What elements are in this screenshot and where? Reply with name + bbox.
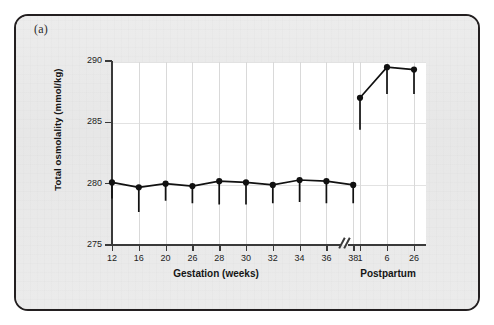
x-axis-line-gestation bbox=[112, 244, 341, 246]
vertical-gridline bbox=[326, 62, 327, 245]
x-tick-label: 1 bbox=[347, 253, 373, 263]
y-tick-label: 280 bbox=[68, 178, 102, 188]
y-tick-label: 285 bbox=[68, 116, 102, 126]
x-tick-label: 6 bbox=[374, 253, 400, 263]
x-tick-mark bbox=[326, 245, 327, 251]
vertical-gridline bbox=[360, 62, 361, 245]
horizontal-gridline bbox=[112, 123, 426, 124]
x-tick-mark bbox=[112, 245, 113, 251]
vertical-gridline bbox=[273, 62, 274, 245]
x-tick-mark bbox=[139, 245, 140, 251]
vertical-gridline bbox=[219, 62, 220, 245]
x-tick-label: 28 bbox=[206, 253, 232, 263]
y-axis-title: Total osmolality (mmol/kg) bbox=[52, 35, 63, 225]
x-tick-mark bbox=[300, 245, 301, 251]
x-tick-label: 26 bbox=[179, 253, 205, 263]
plot-area bbox=[112, 62, 426, 245]
x-axis-title-postpartum: Postpartum bbox=[340, 268, 436, 279]
y-tick-mark bbox=[105, 122, 112, 124]
y-tick-mark bbox=[105, 244, 112, 246]
horizontal-gridline bbox=[112, 185, 426, 186]
x-tick-mark bbox=[387, 245, 388, 251]
vertical-gridline bbox=[246, 62, 247, 245]
figure-panel: (a) 275280285290 12162026283032343638162… bbox=[14, 14, 480, 311]
x-tick-mark bbox=[353, 245, 354, 251]
vertical-gridline bbox=[139, 62, 140, 245]
horizontal-gridline bbox=[112, 62, 426, 63]
x-tick-label: 20 bbox=[153, 253, 179, 263]
panel-label: (a) bbox=[34, 22, 48, 37]
x-tick-mark bbox=[414, 245, 415, 251]
y-tick-mark bbox=[105, 60, 112, 62]
x-tick-mark bbox=[273, 245, 274, 251]
vertical-gridline bbox=[387, 62, 388, 245]
y-axis-line bbox=[111, 61, 113, 246]
x-tick-label: 36 bbox=[313, 253, 339, 263]
vertical-gridline bbox=[300, 62, 301, 245]
vertical-gridline bbox=[414, 62, 415, 245]
x-axis-title-gestation: Gestation (weeks) bbox=[136, 268, 296, 279]
x-tick-mark bbox=[360, 245, 361, 251]
x-tick-label: 32 bbox=[260, 253, 286, 263]
vertical-gridline bbox=[353, 62, 354, 245]
x-tick-label: 30 bbox=[233, 253, 259, 263]
x-tick-mark bbox=[166, 245, 167, 251]
x-tick-mark bbox=[246, 245, 247, 251]
vertical-gridline bbox=[192, 62, 193, 245]
x-tick-label: 12 bbox=[99, 253, 125, 263]
y-tick-label: 275 bbox=[68, 239, 102, 249]
x-tick-label: 16 bbox=[126, 253, 152, 263]
axis-break-icon bbox=[338, 236, 352, 250]
x-tick-mark bbox=[192, 245, 193, 251]
x-tick-label: 34 bbox=[287, 253, 313, 263]
y-tick-label: 290 bbox=[68, 55, 102, 65]
x-tick-mark bbox=[219, 245, 220, 251]
y-tick-mark bbox=[105, 183, 112, 185]
vertical-gridline bbox=[166, 62, 167, 245]
x-tick-label: 26 bbox=[401, 253, 427, 263]
